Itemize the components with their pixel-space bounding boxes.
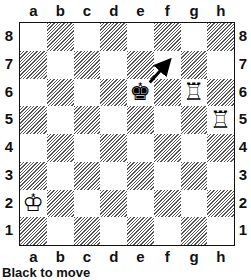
square-h2[interactable] <box>207 190 234 218</box>
square-e8[interactable] <box>127 23 154 51</box>
square-g2[interactable] <box>181 190 208 218</box>
file-label-b: b <box>47 249 74 265</box>
square-c2[interactable] <box>74 190 101 218</box>
rank-label-7: 7 <box>235 56 251 72</box>
square-h3[interactable] <box>207 162 234 190</box>
square-f6[interactable] <box>154 79 181 107</box>
square-e7[interactable] <box>127 51 154 79</box>
square-d8[interactable] <box>100 23 127 51</box>
square-e5[interactable] <box>127 106 154 134</box>
chess-board: ♚♖♖♔ <box>19 22 235 246</box>
square-f5[interactable] <box>154 106 181 134</box>
square-b3[interactable] <box>47 162 74 190</box>
square-e1[interactable] <box>127 217 154 245</box>
square-c6[interactable] <box>74 79 101 107</box>
file-label-g: g <box>181 3 208 19</box>
square-a3[interactable] <box>20 162 47 190</box>
rank-label-2: 2 <box>235 195 251 211</box>
square-h8[interactable] <box>207 23 234 51</box>
rank-label-4: 4 <box>235 139 251 155</box>
file-label-h: h <box>207 3 234 19</box>
square-g3[interactable] <box>181 162 208 190</box>
rank-label-1: 1 <box>1 222 17 238</box>
square-d1[interactable] <box>100 217 127 245</box>
square-f3[interactable] <box>154 162 181 190</box>
white-rook-icon[interactable]: ♖ <box>181 79 208 107</box>
square-h7[interactable] <box>207 51 234 79</box>
square-g7[interactable] <box>181 51 208 79</box>
square-g1[interactable] <box>181 217 208 245</box>
rank-label-2: 2 <box>1 195 17 211</box>
square-h1[interactable] <box>207 217 234 245</box>
square-g4[interactable] <box>181 134 208 162</box>
square-b5[interactable] <box>47 106 74 134</box>
square-c7[interactable] <box>74 51 101 79</box>
rank-label-6: 6 <box>1 84 17 100</box>
rank-label-3: 3 <box>235 167 251 183</box>
square-c4[interactable] <box>74 134 101 162</box>
black-king-icon[interactable]: ♚ <box>127 79 154 107</box>
square-d5[interactable] <box>100 106 127 134</box>
square-a8[interactable] <box>20 23 47 51</box>
file-label-f: f <box>154 3 181 19</box>
square-g8[interactable] <box>181 23 208 51</box>
square-c3[interactable] <box>74 162 101 190</box>
file-label-a: a <box>20 249 47 265</box>
file-label-g: g <box>181 249 208 265</box>
square-b4[interactable] <box>47 134 74 162</box>
file-label-e: e <box>127 3 154 19</box>
square-a7[interactable] <box>20 51 47 79</box>
file-label-c: c <box>74 3 101 19</box>
rank-label-1: 1 <box>235 222 251 238</box>
square-h4[interactable] <box>207 134 234 162</box>
square-c1[interactable] <box>74 217 101 245</box>
square-f4[interactable] <box>154 134 181 162</box>
rank-label-7: 7 <box>1 56 17 72</box>
caption: Black to move <box>2 265 90 280</box>
rank-label-8: 8 <box>235 28 251 44</box>
file-label-c: c <box>74 249 101 265</box>
square-d2[interactable] <box>100 190 127 218</box>
square-g5[interactable] <box>181 106 208 134</box>
file-label-e: e <box>127 249 154 265</box>
file-label-b: b <box>47 3 74 19</box>
rank-label-5: 5 <box>1 111 17 127</box>
square-b6[interactable] <box>47 79 74 107</box>
file-label-d: d <box>100 249 127 265</box>
rank-label-3: 3 <box>1 167 17 183</box>
file-label-a: a <box>20 3 47 19</box>
file-label-f: f <box>154 249 181 265</box>
square-d3[interactable] <box>100 162 127 190</box>
square-b7[interactable] <box>47 51 74 79</box>
rank-label-4: 4 <box>1 139 17 155</box>
rank-label-8: 8 <box>1 28 17 44</box>
square-b2[interactable] <box>47 190 74 218</box>
square-f2[interactable] <box>154 190 181 218</box>
square-a6[interactable] <box>20 79 47 107</box>
white-rook-icon[interactable]: ♖ <box>207 106 234 134</box>
rank-label-5: 5 <box>235 111 251 127</box>
square-f7[interactable] <box>154 51 181 79</box>
square-e2[interactable] <box>127 190 154 218</box>
file-label-d: d <box>100 3 127 19</box>
white-king-icon[interactable]: ♔ <box>20 190 47 218</box>
file-label-h: h <box>207 249 234 265</box>
square-d4[interactable] <box>100 134 127 162</box>
square-d6[interactable] <box>100 79 127 107</box>
square-h6[interactable] <box>207 79 234 107</box>
square-b1[interactable] <box>47 217 74 245</box>
square-d7[interactable] <box>100 51 127 79</box>
square-c8[interactable] <box>74 23 101 51</box>
rank-label-6: 6 <box>235 84 251 100</box>
square-c5[interactable] <box>74 106 101 134</box>
square-a5[interactable] <box>20 106 47 134</box>
square-f1[interactable] <box>154 217 181 245</box>
square-e3[interactable] <box>127 162 154 190</box>
square-a4[interactable] <box>20 134 47 162</box>
square-e4[interactable] <box>127 134 154 162</box>
square-f8[interactable] <box>154 23 181 51</box>
square-a1[interactable] <box>20 217 47 245</box>
square-b8[interactable] <box>47 23 74 51</box>
